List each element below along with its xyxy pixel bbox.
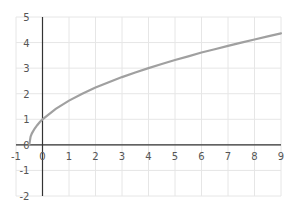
grid-lines [16, 17, 281, 196]
x-tick-label: -1 [11, 151, 21, 162]
y-tick-label: 1 [23, 114, 29, 125]
y-tick-label: -2 [20, 191, 30, 202]
y-axis-tick-labels: -2-1123450 [20, 12, 30, 202]
y-tick-label: 3 [23, 63, 29, 74]
x-axis-tick-labels: -10123456789 [11, 151, 284, 162]
x-tick-label: 0 [39, 151, 45, 162]
y-tick-label: -1 [20, 165, 30, 176]
y-tick-label: 4 [23, 38, 29, 49]
x-tick-label: 4 [145, 151, 151, 162]
y-tick-label: 5 [23, 12, 29, 23]
x-tick-label: 7 [225, 151, 231, 162]
chart-plot: -10123456789 -2-1123450 [0, 0, 297, 210]
x-tick-label: 2 [92, 151, 98, 162]
x-tick-label: 1 [66, 151, 72, 162]
x-tick-label: 9 [278, 151, 284, 162]
x-tick-label: 8 [251, 151, 257, 162]
x-tick-label: 5 [172, 151, 178, 162]
x-tick-label: 3 [119, 151, 125, 162]
data-series-line [29, 33, 281, 144]
x-tick-label: 6 [198, 151, 204, 162]
y-tick-label: 2 [23, 89, 29, 100]
